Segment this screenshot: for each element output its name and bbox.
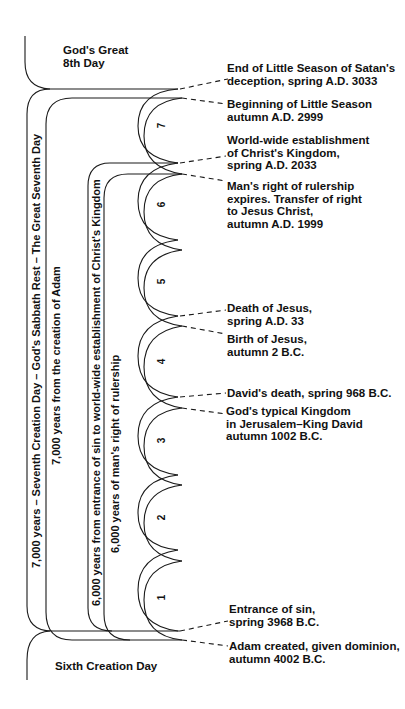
vertical-label-from-adam: 7,000 years from the creation of Adam <box>50 266 62 465</box>
event-entrance-of-sin: Entrance of sin, spring 3968 B.C. <box>229 603 319 628</box>
event-line: David's death, spring 968 B.C. <box>227 387 391 400</box>
event-line: autumn A.D. 1999 <box>227 218 362 231</box>
vertical-label-seventh-day: 7,000 years – Seventh Creation Day – God… <box>30 134 42 568</box>
event-birth-of-jesus: Birth of Jesus, autumn 2 B.C. <box>227 333 307 358</box>
sixth-day-label: Sixth Creation Day <box>55 660 157 673</box>
event-line: Death of Jesus, <box>227 302 312 315</box>
millennium-arcs <box>138 89 182 640</box>
event-davids-death: David's death, spring 968 B.C. <box>227 387 391 400</box>
eighth-day-line-1: God's Great <box>63 44 128 57</box>
event-line: of Christ's Kingdom, <box>227 147 369 160</box>
event-line: in Jerusalem–King David <box>226 418 363 431</box>
event-line: expires. Transfer of right <box>227 193 362 206</box>
event-line: spring A.D. 33 <box>227 315 312 328</box>
millennial-timeline-diagram: God's Great 8th Day Sixth Creation Day 7… <box>0 0 405 709</box>
event-begin-little-season: Beginning of Little Season autumn A.D. 2… <box>227 98 372 123</box>
millennium-7: 7 <box>156 123 167 129</box>
event-typical-kingdom: God's typical Kingdom in Jerusalem–King … <box>226 405 363 443</box>
event-line: Adam created, given dominion, <box>229 640 400 653</box>
event-line: End of Little Season of Satan's <box>227 62 395 75</box>
event-line: spring A.D. 2033 <box>227 159 369 172</box>
vertical-label-man-rulership: 6,000 years of man's right of rulership <box>109 355 121 553</box>
event-line: Birth of Jesus, <box>227 333 307 346</box>
vertical-label-sin-to-kingdom: 6,000 years from entrance of sin to worl… <box>90 179 102 606</box>
event-line: autumn 2 B.C. <box>227 346 307 359</box>
millennium-5: 5 <box>156 279 167 285</box>
event-line: to Jesus Christ, <box>227 205 362 218</box>
event-line: spring 3968 B.C. <box>229 616 319 629</box>
event-kingdom-established: World-wide establishment of Christ's Kin… <box>227 134 369 172</box>
event-death-of-jesus: Death of Jesus, spring A.D. 33 <box>227 302 312 327</box>
eighth-day-label: God's Great 8th Day <box>63 44 128 69</box>
event-line: deception, spring A.D. 3033 <box>227 75 395 88</box>
eighth-day-bracket <box>25 36 50 89</box>
eighth-day-line-2: 8th Day <box>63 57 128 70</box>
event-line: autumn 1002 B.C. <box>226 430 363 443</box>
millennium-3: 3 <box>156 438 167 444</box>
millennium-6: 6 <box>156 202 167 208</box>
event-end-little-season: End of Little Season of Satan's deceptio… <box>227 62 395 87</box>
millennium-1: 1 <box>156 595 167 601</box>
sixth-day-bracket <box>27 631 50 680</box>
event-line: autumn 4002 B.C. <box>229 653 400 666</box>
event-leaders <box>180 79 228 646</box>
event-line: World-wide establishment <box>227 134 369 147</box>
millennium-2: 2 <box>156 515 167 521</box>
event-line: autumn A.D. 2999 <box>227 111 372 124</box>
event-line: Man's right of rulership <box>227 180 362 193</box>
event-adam-created: Adam created, given dominion, autumn 400… <box>229 640 400 665</box>
event-line: Entrance of sin, <box>229 603 319 616</box>
event-line: Beginning of Little Season <box>227 98 372 111</box>
millennium-4: 4 <box>156 359 167 365</box>
event-rulership-expires: Man's right of rulership expires. Transf… <box>227 180 362 230</box>
event-line: God's typical Kingdom <box>226 405 363 418</box>
